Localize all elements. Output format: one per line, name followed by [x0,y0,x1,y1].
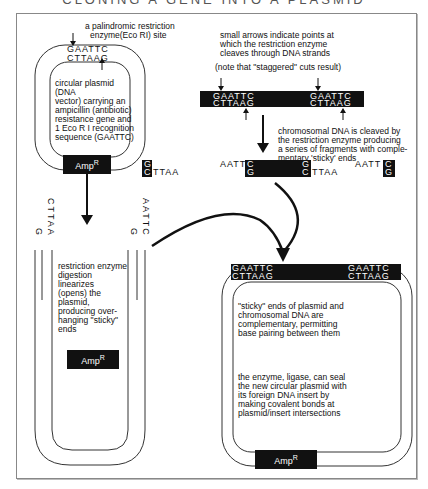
recomb-right-bottom: CTTAAG [348,272,390,281]
frag1-ttaa: TTAA [153,168,179,177]
palindrome-caption-2: enzyme(Eco RI) site [90,31,167,40]
left-plasmid-description: circular plasmid (DNA vector) carrying a… [55,79,135,142]
sticky-end-cttaa: CTTAA [46,198,56,237]
staggered-note: (note that "staggered" cuts result) [215,63,341,72]
frag2-ttaa: TTAA [312,168,338,177]
ampr-marker: AmpR [255,450,317,469]
linear-plasmid-description: restriction enzyme digestion linearizes … [58,262,128,334]
ampr-marker: AmpR [67,350,119,369]
ampr-marker: AmpR [63,155,111,174]
frag2-g: G [247,168,255,177]
diagram-lines [0,0,428,489]
cleave-caption: small arrows indicate points at which th… [220,31,334,58]
frag3-aatt: AATT [355,160,381,169]
recomb-left-bottom: CTTAAG [232,272,274,281]
sticky-end-g: G [34,228,44,237]
ligase-description: the enzyme, ligase, can seal the new cir… [238,373,347,418]
down-arrow-icon [276,248,290,262]
curved-arrow [152,214,283,252]
sticky-end-aattc: AATTC [141,198,151,237]
chrom-site2-bottom: CTTAAG [310,99,352,108]
site-bottom-strand: CTTAAG [67,54,109,63]
cleave-description: chromosomal DNA is cleaved by the restri… [278,127,407,163]
down-arrow-icon [257,143,269,153]
frag3-g: G [385,168,393,177]
down-arrow-icon [81,215,93,225]
chrom-site1-bottom: CTTAAG [213,99,255,108]
frag2-c2: C [302,168,310,177]
base-pairing-description: "sticky" ends of plasmid and chromosomal… [238,302,344,338]
frag2-aatt: AATT [220,160,246,169]
sticky-end-g-right: G [129,228,139,237]
frag1-c: C [144,168,152,177]
recombinant-plasmid-outer [222,266,412,466]
